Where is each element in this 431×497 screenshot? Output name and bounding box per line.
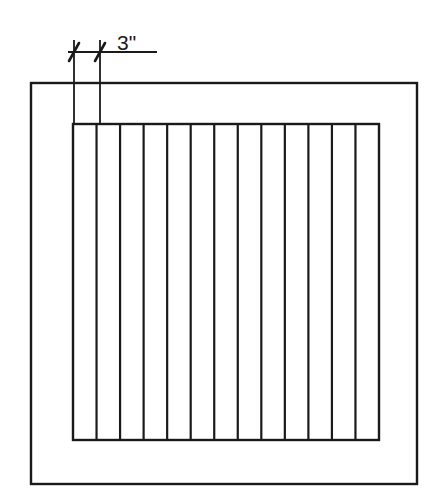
- technical-drawing-canvas: 3": [0, 0, 431, 497]
- dimension-annotation-layer: 3": [68, 31, 157, 126]
- grille-drawing: 3": [0, 0, 431, 497]
- grille-inner-panel: [73, 124, 379, 440]
- grille-panel-layer: [73, 124, 379, 440]
- dimension-label: 3": [117, 31, 136, 54]
